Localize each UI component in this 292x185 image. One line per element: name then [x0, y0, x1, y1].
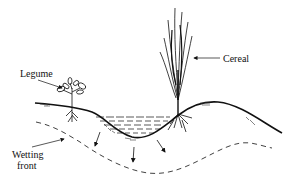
cereal-plant — [160, 8, 192, 132]
wetting-front-label-line2: front — [17, 160, 37, 171]
legume-plant — [56, 78, 86, 123]
wetting-front-line — [36, 122, 272, 173]
infiltration-arrow — [133, 147, 134, 162]
diagram-canvas: Legume Cereal Wetting front — [0, 0, 292, 185]
infiltration-arrow — [157, 140, 165, 152]
wetting-front-label-line1: Wetting — [12, 149, 43, 160]
legume-label: Legume — [20, 68, 53, 79]
cereal-label: Cereal — [223, 53, 249, 64]
legume-leader-line — [38, 80, 62, 88]
infiltration-arrow — [95, 132, 100, 146]
wetting-front-leader-line — [32, 139, 64, 147]
